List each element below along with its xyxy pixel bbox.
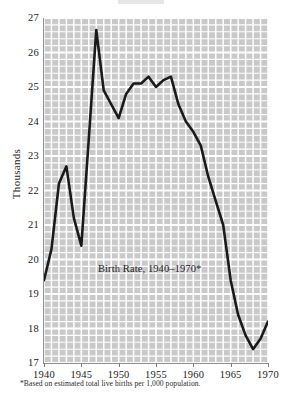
birth-rate-chart-figure: Thousands 2726252423222120191817 Birth R… <box>0 0 287 400</box>
footnote: *Based on estimated total live births pe… <box>20 379 275 388</box>
x-tick-mark <box>81 363 82 367</box>
y-tick-label: 20 <box>13 255 39 266</box>
y-tick-label: 27 <box>13 13 39 24</box>
y-tick-label: 21 <box>13 220 39 231</box>
y-tick-label: 24 <box>13 117 39 128</box>
y-tick-label: 22 <box>13 186 39 197</box>
x-tick-mark <box>119 363 120 367</box>
y-tick-label: 25 <box>13 82 39 93</box>
y-axis-title: Thousands <box>10 124 22 224</box>
y-tick-label: 26 <box>13 48 39 59</box>
x-tick-mark <box>193 363 194 367</box>
x-tick-mark <box>231 363 232 367</box>
x-tick-mark <box>44 363 45 367</box>
birth-rate-line-series <box>44 18 268 363</box>
y-axis: Thousands 2726252423222120191817 <box>0 0 44 400</box>
chart-caption: Birth Rate, 1940–1970* <box>98 263 201 275</box>
y-tick-label: 23 <box>13 151 39 162</box>
y-tick-label: 18 <box>13 324 39 335</box>
x-tick-mark <box>268 363 269 367</box>
plot-area <box>44 18 268 363</box>
clipped-title-artifact <box>118 0 164 4</box>
y-tick-label: 19 <box>13 289 39 300</box>
x-tick-mark <box>156 363 157 367</box>
